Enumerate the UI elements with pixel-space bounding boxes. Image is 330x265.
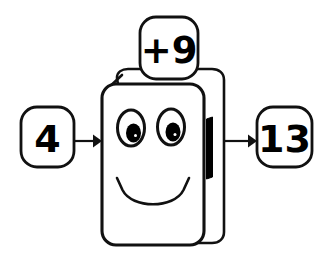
operation-box-label: +9	[141, 29, 198, 72]
input-box[interactable]: 4	[21, 107, 74, 167]
output-box-label: 13	[258, 117, 311, 161]
input-box-label: 4	[34, 117, 60, 161]
machine-handle-icon	[207, 117, 213, 179]
machine-front-face	[102, 84, 204, 245]
machine-eye-right	[158, 109, 185, 145]
output-box[interactable]: 13	[257, 107, 312, 167]
operation-box[interactable]: +9	[140, 17, 198, 79]
machine-eye-left	[118, 110, 145, 146]
diagram-canvas: 4 +9 13	[0, 0, 330, 265]
function-machine-diagram: 4 +9 13	[0, 0, 330, 265]
